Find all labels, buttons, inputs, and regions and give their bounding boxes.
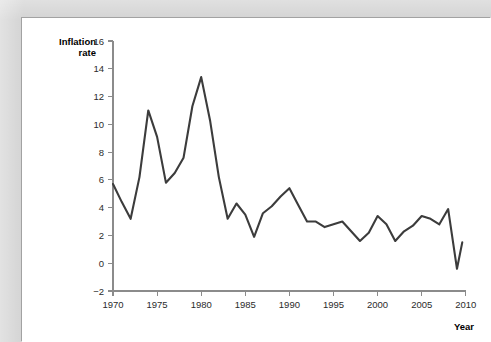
y-tick-label-12: 12 <box>93 91 104 102</box>
x-tick-label-2005: 2005 <box>411 299 432 310</box>
y-tick-label-0: 0 <box>99 258 104 269</box>
x-tick-label-1985: 1985 <box>235 299 256 310</box>
x-tick-label-1995: 1995 <box>323 299 344 310</box>
x-tick-label-1980: 1980 <box>191 299 212 310</box>
y-tick-label-2: 2 <box>99 230 104 241</box>
y-tick-label-16: 16 <box>93 36 104 47</box>
y-axis-title-line1: Inflation <box>59 36 96 47</box>
x-tick-label-1975: 1975 <box>147 299 168 310</box>
x-axis-ticks: 1970 1975 1980 1985 1990 1995 2000 2005 <box>102 291 476 310</box>
y-tick-label-4: 4 <box>99 202 104 213</box>
x-tick-label-1970: 1970 <box>102 299 123 310</box>
y-tick-label-14: 14 <box>93 63 104 74</box>
x-tick-label-1990: 1990 <box>279 299 300 310</box>
page-background: Inflation rate 16 14 12 10 <box>0 0 491 342</box>
y-axis-title-line2: rate <box>79 47 96 58</box>
y-tick-label-minus2: −2 <box>93 286 104 297</box>
chart-container: Inflation rate 16 14 12 10 <box>22 18 491 342</box>
y-tick-label-6: 6 <box>99 174 104 185</box>
inflation-rate-series <box>113 77 462 269</box>
chart-card: Inflation rate 16 14 12 10 <box>22 18 491 342</box>
x-tick-label-2010: 2010 <box>455 299 476 310</box>
y-axis-ticks: 16 14 12 10 8 6 4 2 0 <box>93 36 113 297</box>
x-tick-label-2000: 2000 <box>367 299 388 310</box>
x-axis-title: Year <box>454 321 474 332</box>
inflation-rate-line-chart: Inflation rate 16 14 12 10 <box>22 18 491 342</box>
y-tick-label-8: 8 <box>99 147 104 158</box>
y-tick-label-10: 10 <box>93 119 104 130</box>
